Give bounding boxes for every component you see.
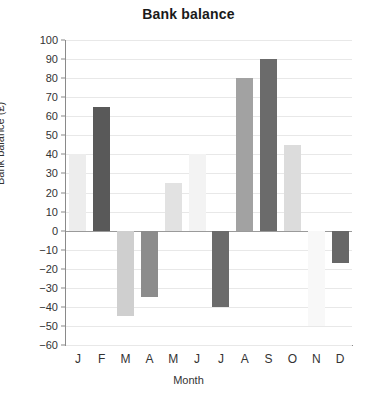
gridline [66,78,352,79]
gridline [66,326,352,327]
bar-august [236,78,253,231]
y-tick-label: 0 [18,225,58,237]
y-tick-label: −50 [18,320,58,332]
chart-title: Bank balance [0,6,377,22]
y-tick-mark [61,268,65,269]
gridline [66,345,352,346]
x-axis-label: Month [0,374,377,386]
y-tick-label: −10 [18,244,58,256]
y-tick-label: 70 [18,91,58,103]
y-tick-mark [61,306,65,307]
plot-area [66,40,352,345]
bar-may [165,183,182,231]
y-tick-label: 10 [18,206,58,218]
y-tick-label: −20 [18,263,58,275]
y-tick-label: 100 [18,34,58,46]
gridline [66,97,352,98]
y-tick-mark [61,173,65,174]
bank-balance-chart: Bank balance Bank balance (£) 1009080706… [0,0,377,394]
y-tick-mark [61,249,65,250]
y-tick-label: 30 [18,167,58,179]
bar-october [284,145,301,231]
y-tick-mark [61,325,65,326]
y-tick-mark [61,78,65,79]
y-tick-mark [61,211,65,212]
y-tick-mark [61,116,65,117]
bar-march [117,231,134,317]
y-tick-mark [61,345,65,346]
y-tick-mark [61,287,65,288]
y-tick-mark [61,135,65,136]
y-tick-label: −30 [18,282,58,294]
bar-june [189,154,206,230]
y-tick-mark [61,59,65,60]
bar-july [212,231,229,307]
gridline [66,59,352,60]
y-tick-mark [61,154,65,155]
y-tick-mark [61,230,65,231]
y-axis-label: Bank balance (£) [0,102,6,185]
gridline [66,40,352,41]
y-tick-label: 20 [18,187,58,199]
y-tick-label: −60 [18,339,58,351]
y-tick-label: 40 [18,148,58,160]
y-tick-mark [61,97,65,98]
bar-september [260,59,277,231]
y-tick-mark [61,192,65,193]
bar-april [141,231,158,298]
y-tick-label: −40 [18,301,58,313]
y-tick-label: 80 [18,72,58,84]
y-tick-label: 50 [18,129,58,141]
y-tick-mark [61,40,65,41]
y-tick-label: 60 [18,110,58,122]
bar-november [308,231,325,326]
bar-january [69,154,86,230]
y-tick-label: 90 [18,53,58,65]
bar-february [93,107,110,231]
bar-december [332,231,349,263]
x-tick-label: D [325,352,355,366]
